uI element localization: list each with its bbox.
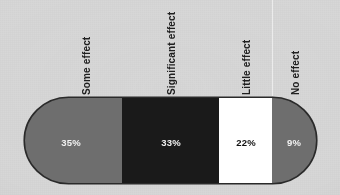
chart-figure: Some effect Significant effect Little ef… xyxy=(0,0,340,195)
category-label-some-effect: Some effect xyxy=(82,37,92,95)
bar-svg: 35% 33% 22% 9% xyxy=(23,96,318,185)
segment-value-no-effect: 9% xyxy=(287,137,301,148)
scan-seam-line xyxy=(272,0,273,96)
category-label-no-effect: No effect xyxy=(291,51,301,95)
segment-value-some-effect: 35% xyxy=(61,137,81,148)
category-label-little-effect: Little effect xyxy=(242,40,252,95)
segment-value-significant-effect: 33% xyxy=(161,137,181,148)
category-label-significant-effect: Significant effect xyxy=(167,12,177,95)
segment-value-little-effect: 22% xyxy=(236,137,256,148)
stacked-bar-chart: 35% 33% 22% 9% xyxy=(23,96,318,185)
